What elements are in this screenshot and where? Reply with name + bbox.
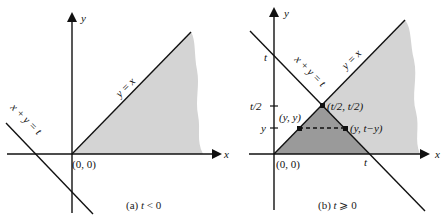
caption-a: (a) t < 0 (126, 199, 162, 212)
label-point-right: (y, t−y) (350, 122, 383, 135)
y-axis-label: y (80, 12, 86, 24)
origin-label: (0, 0) (276, 158, 300, 171)
figure: y x (0, 0) y = x x + y = t (a) t < 0 y x… (0, 0, 446, 222)
x-axis-label: x (434, 148, 440, 160)
caption-b: (b) t ⩾ 0 (318, 199, 357, 212)
label-x-plus-y-equals-t: x + y = t (8, 100, 45, 137)
y-tick-t-half: t/2 (250, 100, 262, 112)
region-a (73, 32, 203, 154)
label-intersection: (t/2, t/2) (327, 100, 363, 113)
x-axis-label: x (223, 148, 229, 160)
y-tick-t: t (264, 51, 268, 63)
panel-a: y x (0, 0) y = x x + y = t (a) t < 0 (6, 12, 229, 214)
point-right (343, 126, 348, 131)
label-point-left: (y, y) (279, 111, 301, 124)
panel-b: y x (0, 0) t t/2 y t (t/2, t/2) (y, y) (… (249, 7, 440, 212)
point-left (297, 126, 302, 131)
x-tick-t: t (364, 156, 368, 168)
y-axis-label: y (283, 7, 289, 19)
point-intersection (320, 103, 325, 108)
origin-label: (0, 0) (72, 158, 96, 171)
label-x-plus-y-equals-t: x + y = t (292, 52, 329, 89)
y-tick-y: y (260, 122, 266, 134)
